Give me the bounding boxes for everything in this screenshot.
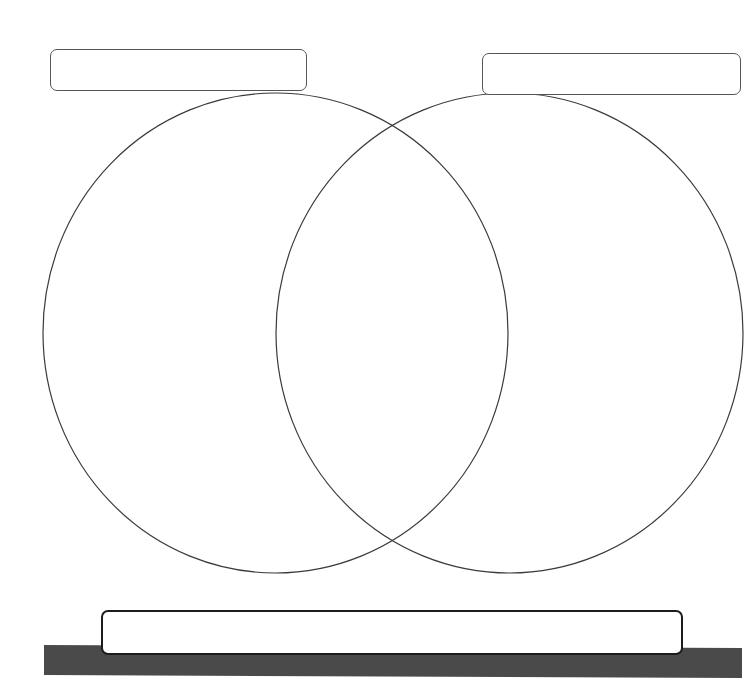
left-set-label-box[interactable] (50, 49, 307, 91)
right-set-label-box[interactable] (482, 53, 741, 95)
right-circle (276, 93, 743, 573)
bottom-title-box[interactable] (101, 610, 683, 655)
venn-worksheet (0, 0, 754, 697)
venn-diagram (0, 0, 754, 697)
